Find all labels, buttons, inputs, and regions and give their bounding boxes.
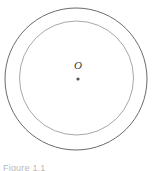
figure-container: O Figure 1.1: [0, 0, 159, 171]
concentric-circles-diagram: [0, 0, 159, 171]
figure-background: [0, 0, 159, 171]
center-point-label: O: [70, 59, 86, 71]
figure-caption: Figure 1.1: [3, 163, 46, 171]
center-point-dot: [76, 77, 79, 80]
